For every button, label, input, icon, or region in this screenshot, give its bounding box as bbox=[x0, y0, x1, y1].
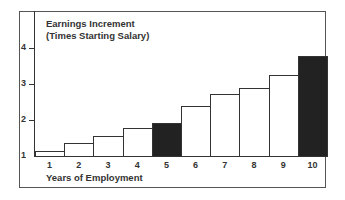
x-tick-label: 8 bbox=[239, 160, 268, 170]
chart-title-line-2: (Times Starting Salary) bbox=[46, 30, 149, 41]
bar-year-3 bbox=[93, 136, 123, 157]
bar-year-5 bbox=[152, 123, 182, 157]
x-tick-label: 4 bbox=[123, 160, 152, 170]
x-tick-label: 1 bbox=[35, 160, 64, 170]
x-tick-label: 10 bbox=[298, 160, 327, 170]
y-tick-label: 4 bbox=[21, 42, 26, 52]
x-axis-title: Years of Employment bbox=[46, 172, 143, 183]
y-tick bbox=[29, 84, 34, 85]
bar-year-1 bbox=[35, 151, 65, 157]
x-tick-label: 5 bbox=[152, 160, 181, 170]
bar-year-7 bbox=[210, 94, 240, 157]
y-tick bbox=[29, 48, 34, 49]
x-tick-label: 9 bbox=[269, 160, 298, 170]
bar-year-9 bbox=[269, 75, 299, 157]
bar-year-8 bbox=[239, 88, 269, 157]
y-tick-label: 3 bbox=[21, 78, 26, 88]
y-tick-label: 2 bbox=[21, 114, 26, 124]
y-tick bbox=[29, 120, 34, 121]
bar-year-4 bbox=[123, 128, 153, 157]
chart-title-line-1: Earnings Increment bbox=[46, 18, 135, 29]
x-tick-label: 6 bbox=[181, 160, 210, 170]
bar-year-2 bbox=[64, 143, 94, 157]
y-axis bbox=[34, 11, 35, 157]
bar-year-6 bbox=[181, 106, 211, 157]
x-tick-label: 7 bbox=[210, 160, 239, 170]
y-tick-label: 1 bbox=[21, 150, 26, 160]
x-tick-label: 3 bbox=[93, 160, 122, 170]
x-tick-label: 2 bbox=[64, 160, 93, 170]
bar-year-10 bbox=[298, 56, 328, 157]
